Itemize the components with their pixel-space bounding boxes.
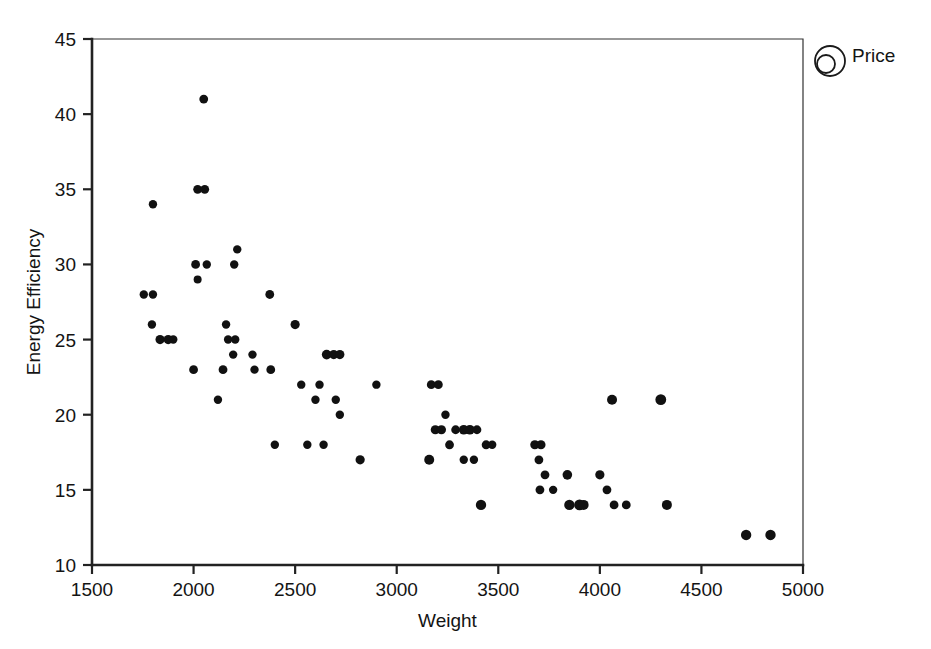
data-point — [488, 441, 496, 449]
data-point — [266, 365, 275, 374]
x-tick-label: 5000 — [782, 579, 824, 600]
y-tick-label: 35 — [55, 179, 76, 200]
data-point — [336, 411, 344, 419]
data-point — [434, 380, 443, 389]
data-point — [303, 441, 311, 449]
x-tick-label: 2500 — [274, 579, 316, 600]
data-point — [603, 485, 612, 494]
data-point — [607, 395, 617, 405]
legend-label-price: Price — [852, 45, 895, 66]
data-point — [564, 500, 574, 510]
data-point — [203, 260, 211, 268]
x-tick-label: 2000 — [172, 579, 214, 600]
x-tick-label: 3500 — [477, 579, 519, 600]
legend: Price — [815, 45, 895, 76]
data-point — [595, 470, 604, 479]
data-point — [541, 470, 550, 479]
data-point — [662, 500, 672, 510]
data-point — [200, 185, 209, 194]
data-point — [549, 486, 557, 494]
data-point — [229, 350, 237, 358]
x-tick-label: 4500 — [680, 579, 722, 600]
data-point — [149, 290, 157, 298]
data-point — [219, 365, 228, 374]
y-tick-label: 30 — [55, 254, 76, 275]
data-point — [765, 530, 775, 540]
data-point — [271, 441, 279, 449]
data-point — [191, 260, 200, 269]
data-point — [233, 245, 241, 253]
data-point — [248, 350, 256, 358]
data-point — [622, 500, 631, 509]
data-point — [265, 290, 274, 299]
data-point — [445, 440, 454, 449]
y-tick-label: 45 — [55, 29, 76, 50]
y-tick-label: 20 — [55, 405, 76, 426]
data-point — [372, 380, 380, 388]
data-point — [437, 425, 446, 434]
data-point — [291, 320, 300, 329]
y-axis-ticks: 1015202530354045 — [55, 29, 92, 576]
data-point — [231, 335, 239, 343]
data-point — [155, 335, 164, 344]
y-tick-label: 15 — [55, 480, 76, 501]
data-point — [451, 425, 460, 434]
data-point — [356, 455, 365, 464]
y-tick-label: 25 — [55, 330, 76, 351]
y-tick-label: 40 — [55, 104, 76, 125]
x-axis-title: Weight — [418, 610, 478, 631]
data-point — [536, 440, 545, 449]
data-point — [230, 260, 238, 268]
data-point — [319, 441, 327, 449]
data-point — [460, 456, 468, 464]
data-point — [194, 275, 202, 283]
data-point — [579, 500, 589, 510]
data-point — [424, 455, 434, 465]
data-point — [214, 395, 222, 403]
data-point — [140, 290, 148, 298]
data-point — [655, 394, 666, 405]
scatter-chart: 1015202530354045 15002000250030003500400… — [0, 0, 931, 649]
x-tick-label: 4000 — [579, 579, 621, 600]
plot-frame-border — [92, 39, 803, 565]
data-point — [441, 411, 449, 419]
legend-bubble-inner-icon — [817, 55, 835, 73]
data-point — [315, 380, 323, 388]
y-axis-title: Energy Efficiency — [23, 228, 44, 375]
data-point — [189, 365, 198, 374]
data-point — [610, 500, 619, 509]
data-point — [476, 500, 486, 510]
y-tick-label: 10 — [55, 555, 76, 576]
data-point — [149, 200, 157, 208]
plot-canvas: 1015202530354045 15002000250030003500400… — [0, 0, 931, 649]
data-point — [470, 456, 478, 464]
data-point — [250, 365, 258, 373]
data-point — [536, 485, 545, 494]
data-point — [169, 335, 177, 343]
data-point — [473, 425, 482, 434]
data-point — [563, 470, 573, 480]
data-point — [741, 530, 751, 540]
x-tick-label: 1500 — [71, 579, 113, 600]
x-axis-ticks: 15002000250030003500400045005000 — [71, 565, 824, 600]
x-tick-label: 3000 — [376, 579, 418, 600]
data-point — [222, 320, 230, 328]
data-point — [535, 455, 544, 464]
data-point — [311, 395, 319, 403]
data-point — [148, 320, 156, 328]
data-point — [297, 380, 305, 388]
data-point — [335, 350, 344, 359]
data-point — [332, 395, 340, 403]
data-point-group — [140, 95, 776, 540]
data-point — [199, 95, 208, 104]
